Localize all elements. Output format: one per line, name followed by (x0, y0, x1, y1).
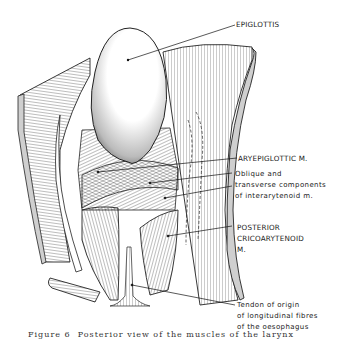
label-tendon-line1: Tendon of origin (237, 300, 300, 311)
label-oblique-line3: of interarytenoid m. (235, 191, 313, 202)
label-tendon-line2: of longitudinal fibres (237, 311, 318, 322)
label-aryepiglottic-m: ARYEPIGLOTTIC M. (238, 153, 308, 164)
label-posterior-line3: M. (237, 244, 246, 255)
label-oblique-line1: Oblique and (235, 169, 282, 180)
figure-caption: Figure 6 Posterior view of the muscles o… (28, 330, 294, 339)
larynx-posterior-illustration (0, 0, 342, 339)
label-posterior-line1: POSTERIOR (237, 222, 280, 233)
label-epiglottis: EPIGLOTTIS (236, 19, 279, 30)
label-oblique-line2: transverse components (235, 180, 326, 191)
label-posterior-line2: CRICOARYTENOID (237, 233, 304, 244)
